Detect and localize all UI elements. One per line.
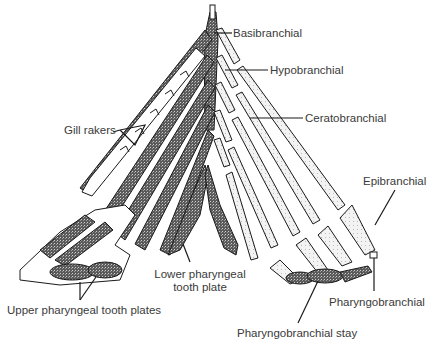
label-lower-pharyngeal-line1: Lower pharyngeal — [150, 268, 250, 281]
label-epibranchial: Epibranchial — [363, 175, 426, 188]
label-lower-pharyngeal-tooth-plate: Lower pharyngeal tooth plate — [150, 268, 250, 294]
branchial-skeleton-diagram: Basibranchial Hypobranchial Ceratobranch… — [0, 0, 431, 349]
right-arches — [214, 28, 345, 260]
label-gill-rakers: Gill rakers — [64, 124, 116, 137]
label-upper-pharyngeal-tooth-plates: Upper pharyngeal tooth plates — [7, 304, 161, 317]
label-ceratobranchial: Ceratobranchial — [305, 112, 386, 125]
label-basibranchial: Basibranchial — [233, 27, 302, 40]
upper-pharyngeal-region — [20, 205, 135, 285]
label-pharyngobranchial: Pharyngobranchial — [329, 296, 425, 309]
label-pharyngobranchial-stay: Pharyngobranchial stay — [237, 327, 357, 340]
pharyngobranchials — [286, 252, 377, 284]
label-hypobranchial: Hypobranchial — [270, 64, 344, 77]
label-lower-pharyngeal-line2: tooth plate — [150, 281, 250, 294]
